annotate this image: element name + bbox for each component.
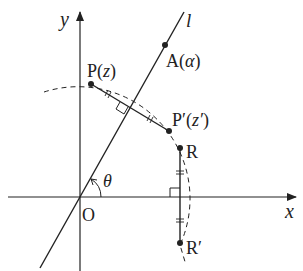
point-p-prime-label: P′(z′)	[172, 110, 209, 131]
dashed-circle-arc	[44, 87, 190, 265]
angle-theta-arc	[91, 179, 101, 197]
origin-label: O	[82, 205, 95, 225]
segment-p-pprime	[91, 84, 169, 131]
complex-plane-reflection-diagram: y x O l θ P(z) A(α) P′(z′) R R′	[0, 0, 303, 271]
line-l-label: l	[186, 10, 191, 31]
point-a	[162, 42, 168, 48]
point-p-label: P(z)	[87, 61, 116, 82]
point-r-prime	[177, 240, 183, 246]
line-l	[40, 12, 184, 268]
point-r	[177, 145, 183, 151]
y-axis-label: y	[58, 8, 69, 31]
right-angle-marker-pp	[116, 102, 128, 114]
point-r-label: R	[186, 142, 198, 162]
angle-theta-label: θ	[103, 171, 112, 191]
point-a-label: A(α)	[166, 51, 200, 72]
x-axis-label: x	[284, 200, 294, 222]
right-angle-marker-rr	[170, 188, 180, 197]
point-p	[88, 81, 94, 87]
point-r-prime-label: R′	[186, 238, 202, 258]
